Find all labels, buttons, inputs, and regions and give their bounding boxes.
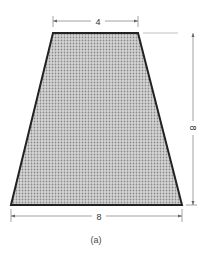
height-label: 8 [188, 125, 198, 130]
bottom-width-dimension: 8 [11, 209, 182, 222]
figure-caption: (a) [91, 235, 102, 245]
top-width-label: 4 [95, 17, 100, 27]
trapezoid-diagram: 4 8 8 (a) [0, 0, 207, 263]
bottom-width-label: 8 [96, 212, 101, 222]
top-width-dimension: 4 [53, 16, 138, 27]
trapezoid-shape [11, 33, 182, 205]
